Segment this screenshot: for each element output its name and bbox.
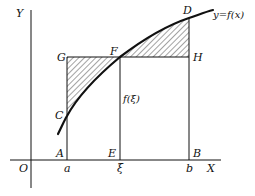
hatched-region-left [67,57,120,116]
point-h-label: H [192,51,203,64]
point-f-label: F [109,45,118,58]
tick-b-label: b [186,162,193,175]
point-b-label: B [192,147,201,160]
point-g-label: G [57,51,66,64]
y-axis-label: Y [16,7,25,20]
ordinate-f-xi-label: f(ξ) [122,93,140,104]
x-axis-label: X [206,162,216,175]
hatched-region-right [120,18,189,57]
curve-label: y=f(x) [212,9,244,20]
point-e-label: E [107,147,116,160]
point-c-label: C [55,109,64,122]
tick-a-label: a [64,162,71,175]
tick-xi-label: ξ [117,162,124,175]
point-d-label: D [182,4,192,17]
diagram-canvas: Y X O G F D H C A E B a ξ b f(ξ) y=f(x) [0,0,255,196]
point-a-label: A [55,147,64,160]
origin-label: O [19,162,28,175]
